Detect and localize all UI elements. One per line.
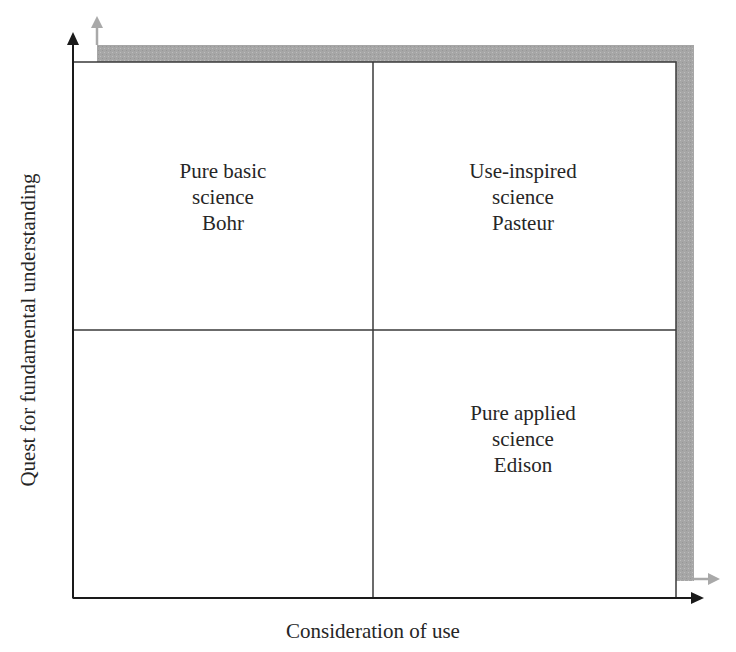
shadow-up-arrow-icon [91,16,103,45]
x-axis-arrow-icon [691,592,704,604]
quadrant-subtitle: science [103,184,343,210]
quadrant-title: Use-inspired [403,158,643,184]
quadrant-top-right-label: Use-inspired science Pasteur [403,158,643,236]
quadrant-bottom-right-label: Pure applied science Edison [403,400,643,478]
quadrant-top-left-label: Pure basic science Bohr [103,158,343,236]
quadrant-title: Pure basic [103,158,343,184]
quadrant-exemplar: Pasteur [403,210,643,236]
shadow-right-band [676,45,694,581]
x-axis-label: Consideration of use [0,619,736,644]
shadow-right-arrow-icon [694,573,720,585]
y-axis-label: Quest for fundamental understanding [16,173,41,486]
y-axis-arrow-icon [67,32,79,45]
quadrant-exemplar: Bohr [103,210,343,236]
quadrant-subtitle: science [403,426,643,452]
quadrant-subtitle: science [403,184,643,210]
quadrant-title: Pure applied [403,400,643,426]
shadow-top-band [97,45,694,62]
quadrant-grid [73,62,676,598]
quadrant-exemplar: Edison [403,452,643,478]
quadrant-diagram [0,0,736,652]
